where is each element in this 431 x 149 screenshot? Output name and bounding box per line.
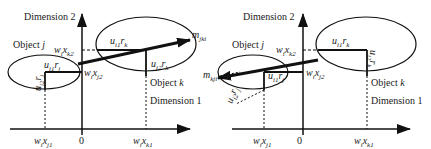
left-u2rk-label: ui2rk — [151, 58, 169, 72]
right-dim1-label: Dimension 1 — [371, 95, 422, 106]
left-wxj2-label: wixj2 — [84, 67, 103, 81]
left-origin-label: 0 — [79, 135, 84, 146]
right-wxj1-label: wixj1 — [253, 135, 272, 149]
right-object-j-label: Object j — [232, 39, 264, 50]
left-wxk1-label: wixk1 — [133, 135, 153, 149]
left-dim2-label: Dimension 2 — [24, 11, 75, 22]
right-panel: Dimension 2 Dimension 1 Object j Object … — [203, 11, 422, 149]
right-object-k-ellipse — [316, 17, 416, 71]
left-object-j-label: Object j — [13, 39, 45, 50]
right-wxk2-label: wixk2 — [276, 44, 296, 58]
left-dim1-label: Dimension 1 — [150, 95, 201, 106]
left-m-jki-label: mjki — [192, 29, 206, 43]
right-u1rk-label: ui1rk — [332, 35, 350, 49]
diagram: Dimension 2 Dimension 1 Object j Object … — [0, 0, 431, 149]
right-wxk1-label: wixk1 — [354, 135, 374, 149]
right-object-k-label: Object k — [371, 77, 405, 88]
left-arrow-m-jki — [78, 40, 190, 64]
left-u1rj-label: ui1rj — [44, 59, 60, 73]
right-dim2-label: Dimension 2 — [243, 11, 294, 22]
right-origin-label: 0 — [297, 135, 302, 146]
right-wxj2-label: wixj2 — [306, 67, 325, 81]
right-u2rj-label: ui2rj — [224, 86, 243, 106]
right-m-kji-label: mkji — [203, 69, 217, 83]
left-object-k-label: Object k — [150, 77, 184, 88]
left-wxj1-label: wixj1 — [34, 135, 53, 149]
left-panel: Dimension 2 Dimension 1 Object j Object … — [8, 11, 206, 149]
left-u1rk-label: ui1rk — [110, 35, 128, 49]
